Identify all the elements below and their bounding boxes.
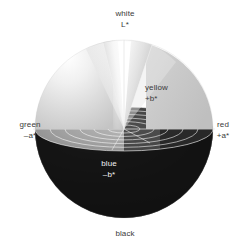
- label-blue-name: blue: [101, 159, 117, 168]
- label-green: green –a*: [6, 119, 54, 141]
- label-white-name: white: [115, 9, 134, 18]
- label-red-name: red: [217, 120, 229, 129]
- label-red: red +a*: [201, 119, 245, 141]
- label-red-axis: +a*: [201, 130, 245, 141]
- label-white-axis: L*: [94, 19, 156, 30]
- label-yellow-name: yellow: [145, 83, 168, 92]
- cielab-sphere-figure: white L* black green –a* red +a* yellow …: [0, 0, 250, 249]
- label-white: white L*: [94, 8, 156, 30]
- label-yellow-axis: +b*: [145, 93, 197, 104]
- label-green-axis: –a*: [6, 130, 54, 141]
- label-blue: blue –b*: [84, 158, 134, 180]
- label-blue-axis: –b*: [84, 169, 134, 180]
- label-black: black: [94, 228, 156, 239]
- label-black-name: black: [115, 229, 134, 238]
- label-yellow: yellow +b*: [145, 82, 197, 104]
- label-green-name: green: [20, 120, 41, 129]
